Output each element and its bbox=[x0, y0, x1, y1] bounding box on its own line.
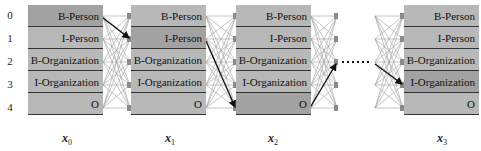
edges-x1-x2 bbox=[206, 16, 236, 108]
cell-o: O bbox=[404, 93, 479, 115]
cell-i-person: I-Person bbox=[404, 27, 479, 49]
cell-o: O bbox=[28, 93, 103, 115]
cell-i-person: I-Person bbox=[28, 27, 103, 49]
cell-i-person: I-Person bbox=[236, 27, 311, 49]
column-x1: B-Person I-Person B-Organization I-Organ… bbox=[131, 5, 206, 115]
cell-i-organization: I-Organization bbox=[236, 71, 311, 93]
cell-i-organization: I-Organization bbox=[131, 71, 206, 93]
column-x0: B-Person I-Person B-Organization I-Organ… bbox=[28, 5, 103, 115]
cell-i-organization: I-Organization bbox=[28, 71, 103, 93]
cell-b-person: B-Person bbox=[28, 5, 103, 27]
cell-o: O bbox=[236, 93, 311, 115]
column-label-x0: x0 bbox=[62, 131, 72, 147]
column-label-x1: x1 bbox=[165, 131, 175, 147]
cell-b-person: B-Person bbox=[131, 5, 206, 27]
edges-x2-next bbox=[311, 16, 337, 108]
column-label-x2: x2 bbox=[268, 131, 278, 147]
column-x2: B-Person I-Person B-Organization I-Organ… bbox=[236, 5, 311, 115]
edges-prev-x3 bbox=[375, 16, 403, 108]
cell-b-person: B-Person bbox=[404, 5, 479, 27]
cell-i-person: I-Person bbox=[131, 27, 206, 49]
cell-b-organization: B-Organization bbox=[28, 49, 103, 71]
cell-i-organization: I-Organization bbox=[404, 71, 479, 93]
cell-b-organization: B-Organization bbox=[131, 49, 206, 71]
edges-x0-x1 bbox=[103, 16, 130, 108]
cell-b-organization: B-Organization bbox=[404, 49, 479, 71]
column-label-x3: x3 bbox=[437, 131, 447, 147]
cell-b-organization: B-Organization bbox=[236, 49, 311, 71]
path-prev-x3 bbox=[375, 64, 402, 84]
cell-b-person: B-Person bbox=[236, 5, 311, 27]
cell-o: O bbox=[131, 93, 206, 115]
column-x3: B-Person I-Person B-Organization I-Organ… bbox=[404, 5, 479, 115]
